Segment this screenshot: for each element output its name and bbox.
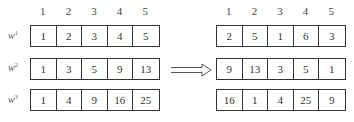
column-header: 5	[318, 5, 344, 17]
left-row-w1: 1 2 3 4 5	[30, 25, 160, 47]
cell: 25	[294, 90, 320, 110]
cell: 1	[31, 26, 57, 46]
cell: 16	[108, 90, 134, 110]
column-header: 4	[107, 5, 133, 17]
column-header: 1	[30, 5, 56, 17]
cell: 3	[268, 59, 294, 79]
column-header: 2	[56, 5, 82, 17]
cell: 5	[133, 26, 159, 46]
column-header: 3	[81, 5, 107, 17]
column-header: 4	[293, 5, 319, 17]
cell: 3	[57, 59, 83, 79]
cell: 4	[268, 90, 294, 110]
row-label-w3: w3	[8, 94, 18, 105]
cell: 5	[294, 59, 320, 79]
cell: 9	[217, 59, 243, 79]
column-header: 1	[216, 5, 242, 17]
cell: 2	[217, 26, 243, 46]
cell: 9	[319, 90, 345, 110]
column-header: 5	[132, 5, 158, 17]
cell: 1	[243, 90, 269, 110]
cell: 1	[268, 26, 294, 46]
left-row-w3: 1 4 9 16 25	[30, 89, 160, 111]
cell: 16	[217, 90, 243, 110]
cell: 3	[82, 26, 108, 46]
cell: 4	[57, 90, 83, 110]
cell: 9	[82, 90, 108, 110]
right-column-headers: 1 2 3 4 5	[216, 5, 344, 17]
cell: 13	[133, 59, 159, 79]
cell: 4	[108, 26, 134, 46]
column-header: 2	[242, 5, 268, 17]
cell: 1	[319, 59, 345, 79]
cell: 5	[82, 59, 108, 79]
cell: 2	[57, 26, 83, 46]
column-header: 3	[267, 5, 293, 17]
left-column-headers: 1 2 3 4 5	[30, 5, 158, 17]
cell: 9	[108, 59, 134, 79]
right-row-3: 16 1 4 25 9	[216, 89, 346, 111]
right-row-1: 2 5 1 6 3	[216, 25, 346, 47]
cell: 13	[243, 59, 269, 79]
cell: 5	[243, 26, 269, 46]
cell: 25	[133, 90, 159, 110]
double-arrow-right-icon	[170, 63, 212, 77]
cell: 1	[31, 90, 57, 110]
cell: 1	[31, 59, 57, 79]
row-label-w2: w2	[8, 62, 18, 73]
left-row-w2: 1 3 5 9 13	[30, 58, 160, 80]
cell: 6	[294, 26, 320, 46]
row-label-w1: w1	[8, 30, 18, 41]
right-row-2: 9 13 3 5 1	[216, 58, 346, 80]
cell: 3	[319, 26, 345, 46]
